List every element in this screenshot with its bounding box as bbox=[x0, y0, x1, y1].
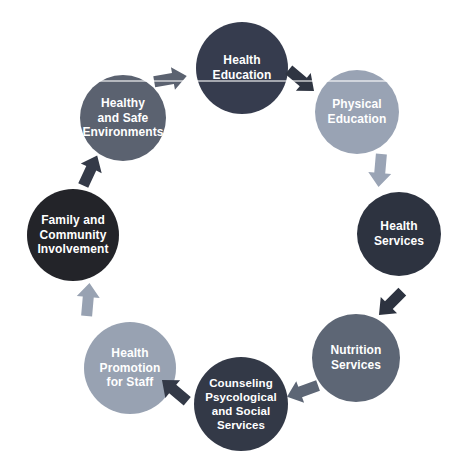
node-health-education-label: Health Education bbox=[213, 53, 272, 82]
arrow-physical-education-to-health-services bbox=[362, 149, 397, 192]
node-family-community-label: Family and Community Involvement bbox=[37, 213, 108, 257]
node-health-promotion-label: Health Promotion for Staff bbox=[100, 346, 161, 390]
node-family-and-community-involvement: Family and Community Involvement bbox=[27, 189, 119, 281]
node-counseling-psycological-and-social-services: Counseling Psycological and Social Servi… bbox=[194, 357, 288, 451]
cycle-diagram: Health Education Physical Education Heal… bbox=[0, 0, 470, 466]
node-nutrition-services-label: Nutrition Services bbox=[331, 343, 382, 372]
arrow-healthy-safe-to-health-education bbox=[148, 60, 193, 98]
node-counseling-label: Counseling Psycological and Social Servi… bbox=[205, 376, 277, 432]
node-health-education: Health Education bbox=[196, 22, 288, 114]
node-physical-education: Physical Education bbox=[315, 70, 399, 154]
node-health-services-label: Health Services bbox=[374, 219, 424, 248]
node-physical-education-label: Physical Education bbox=[328, 97, 387, 126]
node-healthy-safe-label: Healthy and Safe Environments bbox=[82, 96, 163, 140]
node-health-services: Health Services bbox=[357, 192, 441, 276]
arrow-health-promotion-to-family-community bbox=[70, 279, 105, 322]
